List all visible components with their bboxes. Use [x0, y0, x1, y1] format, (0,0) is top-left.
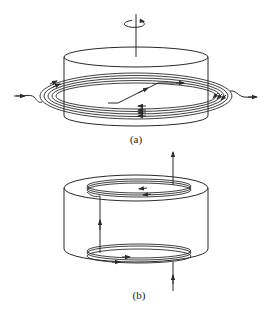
- top-coil: [87, 179, 191, 197]
- caption-a: (a): [130, 133, 143, 146]
- cylinder-bottom: [64, 116, 208, 126]
- concentric-loops: [40, 73, 232, 119]
- diagonal-arrow-icon: [138, 88, 148, 93]
- diagonal-crossing-line: [108, 83, 183, 103]
- outlet-lead: [230, 91, 256, 97]
- top-coil-arrow-icon: [139, 188, 147, 189]
- rotation-arrow-icon: [124, 19, 145, 28]
- panel-b: (b): [64, 152, 208, 302]
- panel-a: (a): [14, 14, 257, 146]
- caption-b: (b): [133, 289, 146, 302]
- figure-canvas: (a) (b): [0, 0, 267, 309]
